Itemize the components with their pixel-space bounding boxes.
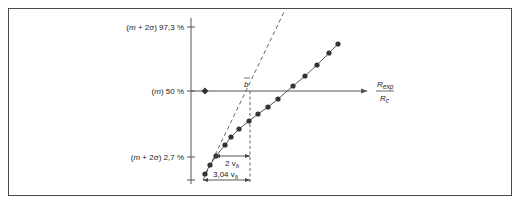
data-point bbox=[207, 162, 212, 167]
probability-plot: (m + 2σ) 97,3 % (m) 50 % (m + 2σ) 2,7 % … bbox=[0, 0, 520, 205]
svg-text:Rc: Rc bbox=[380, 94, 390, 104]
y-tick-label-97: (m + 2σ) 97,3 % bbox=[126, 23, 184, 32]
arrow-right-icon bbox=[245, 154, 250, 158]
annotation-3-04v: 3,04 vδ bbox=[213, 170, 239, 180]
x-axis-arrow-icon bbox=[361, 89, 368, 94]
data-point bbox=[255, 111, 260, 116]
x-axis-label: Rexp Rc bbox=[376, 80, 394, 104]
data-point bbox=[275, 96, 280, 101]
data-point bbox=[326, 50, 331, 55]
y-tick-label-50: (m) 50 % bbox=[152, 87, 184, 96]
svg-text:Rexp: Rexp bbox=[377, 80, 394, 91]
data-point bbox=[246, 118, 251, 123]
data-point bbox=[302, 73, 307, 78]
data-point bbox=[265, 104, 270, 109]
svg-text:b: b bbox=[244, 80, 249, 89]
annotation-2v: 2 vδ bbox=[225, 159, 240, 169]
data-point bbox=[202, 171, 207, 176]
arrow-right-icon bbox=[245, 178, 250, 182]
data-point bbox=[236, 126, 241, 131]
data-point bbox=[290, 83, 295, 88]
data-point bbox=[335, 41, 340, 46]
data-point bbox=[222, 142, 227, 147]
reference-point-marker bbox=[202, 88, 209, 95]
data-point bbox=[314, 62, 319, 67]
y-tick-label-2-7: (m + 2σ) 2,7 % bbox=[131, 153, 184, 162]
data-point bbox=[228, 134, 233, 139]
